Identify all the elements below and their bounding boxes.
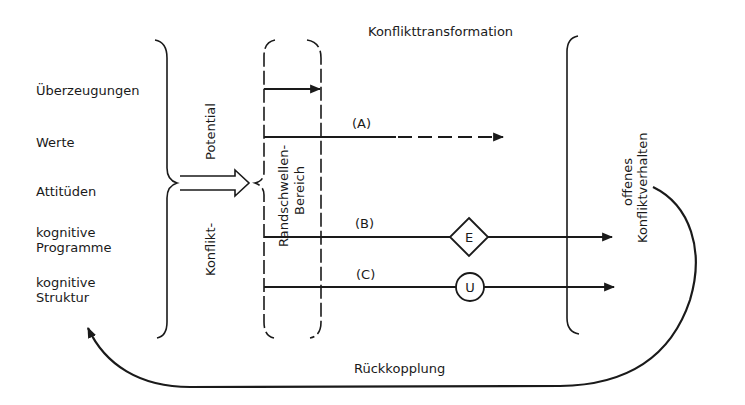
threshold-label-line2: Bereich	[292, 166, 307, 215]
source-kognitive-programme: kognitive Programme	[36, 225, 112, 255]
source-attitueden: Attitüden	[36, 184, 96, 199]
potential-brace	[155, 40, 177, 338]
source-kognitive-struktur: kognitive Struktur	[36, 275, 96, 305]
threshold-left-brace	[255, 40, 275, 338]
outcome-label-line2: Konfliktverhalten	[635, 133, 650, 243]
source-ueberzeugungen: Überzeugungen	[36, 83, 139, 98]
source-kognitive-programme-line1: kognitive	[36, 225, 112, 240]
outcome-label-line1: offenes	[620, 158, 635, 206]
label-b: (B)	[355, 216, 374, 231]
circle-node-u-label: U	[465, 280, 475, 295]
source-kognitive-struktur-line2: Struktur	[36, 290, 96, 305]
potential-label: Potential	[203, 103, 218, 160]
label-a: (A)	[352, 116, 371, 131]
threshold-label-line1: Randschwellen-	[276, 145, 291, 247]
feedback-label: Rückkopplung	[354, 361, 445, 376]
label-c: (C)	[356, 267, 375, 282]
behavior-bracket	[567, 36, 579, 334]
konflikt-label: Konflikt-	[203, 223, 218, 276]
source-kognitive-struktur-line1: kognitive	[36, 275, 96, 290]
source-kognitive-programme-line2: Programme	[36, 240, 112, 255]
source-werte: Werte	[36, 135, 75, 150]
diagram-title: Konflikttransformation	[368, 24, 513, 39]
hollow-arrow	[180, 170, 249, 196]
threshold-right-brace	[307, 40, 321, 338]
diamond-node-e-label: E	[465, 230, 473, 245]
